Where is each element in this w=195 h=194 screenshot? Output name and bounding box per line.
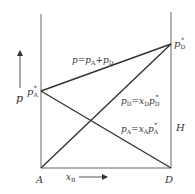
total-pressure-line — [41, 44, 171, 91]
D-label: D — [164, 174, 173, 185]
pD-equation-label: pD=xDpD* — [121, 93, 160, 107]
pA-star-label: pA* — [27, 84, 38, 98]
H-label: H — [175, 122, 185, 133]
total-pressure-label: p=pA+pD — [72, 55, 114, 66]
A-label: A — [35, 174, 43, 185]
diagram-svg: p pA* pD* p=pA+pD pD=xDpD* pA=xApA* H A … — [0, 0, 195, 194]
raoult-diagram: p pA* pD* p=pA+pD pD=xDpD* pA=xApA* H A … — [0, 0, 195, 194]
pA-equation-label: pA=xApA* — [121, 121, 159, 135]
pD-star-label: pD* — [174, 36, 185, 50]
y-axis-label: p — [16, 92, 23, 105]
x-axis-label: xB — [66, 172, 76, 183]
